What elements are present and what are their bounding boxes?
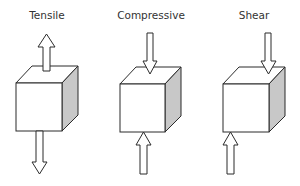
- shear-up-arrow-icon: [223, 132, 238, 174]
- tensile-up-arrow-icon: [38, 34, 55, 71]
- tensile-cube: [16, 66, 78, 131]
- stress-diagram: [0, 0, 300, 186]
- tensile-down-arrow-icon: [32, 131, 47, 174]
- compressive-up-arrow-icon: [136, 132, 151, 174]
- shear-cube: [223, 67, 285, 132]
- compressive-cube: [120, 67, 181, 132]
